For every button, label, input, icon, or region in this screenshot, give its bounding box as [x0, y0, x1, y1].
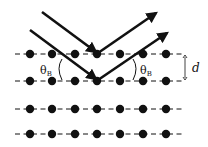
theta-arc-left	[59, 59, 62, 80]
atom	[93, 130, 101, 138]
bragg-diagram: θB θB d	[0, 0, 208, 147]
atom	[116, 130, 124, 138]
atom	[26, 130, 34, 138]
atom	[48, 130, 56, 138]
atom	[162, 50, 170, 58]
atom	[139, 105, 147, 113]
spacing-label-d: d	[192, 61, 200, 75]
atom	[116, 77, 124, 85]
atom	[48, 105, 56, 113]
atom	[71, 105, 79, 113]
atom	[48, 50, 56, 58]
atom	[71, 130, 79, 138]
atom	[26, 50, 34, 58]
atom	[48, 77, 56, 85]
atom	[26, 77, 34, 85]
atom	[162, 77, 170, 85]
theta-label-left: θB	[40, 64, 52, 78]
atom	[71, 77, 79, 85]
theta-label-right: θB	[140, 64, 152, 78]
atom	[162, 130, 170, 138]
atom	[26, 105, 34, 113]
theta-arc-right	[133, 59, 136, 80]
atom	[116, 105, 124, 113]
atom	[139, 130, 147, 138]
reflected-ray-2-arrow-icon	[98, 33, 167, 80]
atom	[116, 50, 124, 58]
atom	[139, 77, 147, 85]
atom	[162, 105, 170, 113]
atom	[71, 50, 79, 58]
atom	[93, 105, 101, 113]
